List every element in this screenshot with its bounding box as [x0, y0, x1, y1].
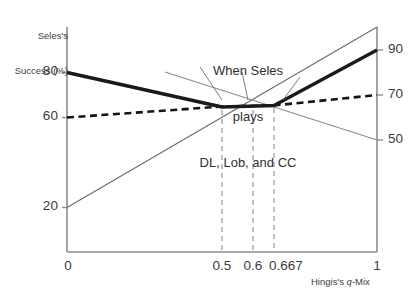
y-axis-right-ticks [377, 50, 383, 140]
y-tick-label-60: 60 [28, 109, 58, 123]
x-tick-label-0: 0 [62, 258, 74, 273]
x-axis-title-suffix: -Mix [352, 276, 370, 287]
annotation-line3: DL, Lob, and CC [178, 155, 318, 170]
y-tick-label-90: 90 [388, 42, 403, 56]
y-axis-title-line1: Seles's [8, 30, 68, 42]
annotation-when-seles-plays: When Seles plays DL, Lob, and CC [178, 32, 318, 201]
y-axis-title: Seles's Success (%) [8, 6, 68, 101]
annotation-line1: When Seles [178, 63, 318, 78]
annotation-line2: plays [178, 109, 318, 124]
y-tick-label-80: 80 [28, 64, 58, 78]
chart-figure: Seles's Success (%) 80 60 20 90 70 50 0 … [0, 0, 416, 292]
x-axis-title-prefix: Hingis's [311, 276, 347, 287]
x-tick-label-0.5: 0.5 [209, 258, 235, 273]
y-tick-label-70: 70 [388, 87, 403, 101]
x-tick-label-0.6: 0.6 [240, 258, 266, 273]
y-tick-label-50: 50 [388, 132, 403, 146]
y-tick-label-20: 20 [28, 199, 58, 213]
x-tick-label-1: 1 [368, 258, 386, 273]
x-axis-title: Hingis's q-Mix [311, 276, 370, 287]
x-tick-label-0.667: 0.667 [269, 258, 309, 273]
